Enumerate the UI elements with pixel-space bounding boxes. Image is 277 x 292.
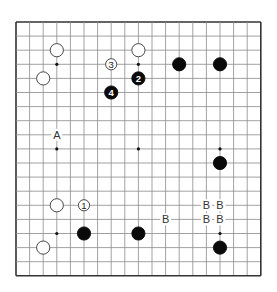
star-point [137, 63, 140, 66]
stone-shape [213, 58, 226, 71]
move-number: 4 [109, 87, 115, 98]
stone-shape [37, 72, 50, 85]
mark-label-b: B [203, 199, 210, 211]
black-stone [213, 58, 226, 71]
black-stone: 2 [132, 72, 145, 85]
mark-label-b: B [162, 213, 169, 225]
stone-shape [50, 199, 63, 212]
star-point [55, 232, 58, 235]
white-stone: 3 [106, 59, 117, 70]
black-stone: 4 [105, 86, 118, 99]
white-stone [50, 199, 63, 212]
stone-shape [213, 241, 226, 254]
stone-shape [132, 227, 145, 240]
star-point [218, 232, 221, 235]
star-point [137, 147, 140, 150]
star-point [55, 63, 58, 66]
stone-shape [37, 241, 50, 254]
stone-shape [173, 58, 186, 71]
star-point [55, 147, 58, 150]
black-stone [173, 58, 186, 71]
mark-label-b: B [216, 199, 223, 211]
stone-shape [50, 44, 63, 57]
white-stone [37, 241, 50, 254]
move-number: 3 [109, 59, 114, 70]
black-stone [132, 227, 145, 240]
mark-label-b: B [203, 213, 210, 225]
star-point [218, 147, 221, 150]
white-stone [132, 44, 145, 57]
black-stone [213, 241, 226, 254]
black-stone [77, 227, 90, 240]
move-number: 1 [81, 200, 86, 211]
white-stone: 1 [78, 200, 89, 211]
mark-label-b: B [216, 213, 223, 225]
go-board: ABBBBB 3241 [0, 0, 277, 292]
white-stone [50, 44, 63, 57]
mark-label-a: A [53, 129, 61, 141]
move-number: 2 [136, 73, 141, 84]
stone-shape [77, 227, 90, 240]
black-stone [213, 156, 226, 169]
stone-shape [132, 44, 145, 57]
white-stone [37, 72, 50, 85]
stone-shape [213, 156, 226, 169]
